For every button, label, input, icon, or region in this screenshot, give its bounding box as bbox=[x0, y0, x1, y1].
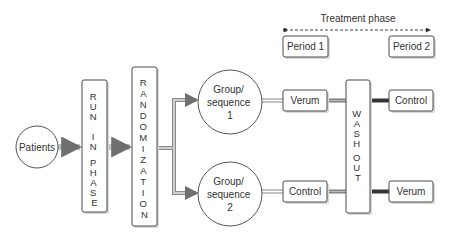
run-in-phase-label: R U N I N P H A S E bbox=[90, 91, 100, 208]
group1-period1-label: Verum bbox=[291, 95, 320, 106]
period-2-box: Period 2 bbox=[389, 36, 436, 59]
treatment-phase-header: Treatment phase bbox=[285, 13, 430, 30]
treatment-phase-label: Treatment phase bbox=[320, 13, 396, 24]
randomization-box: R A N D O M I Z A T I O N bbox=[132, 67, 159, 228]
group-sequence-2-node: Group/ sequence 2 bbox=[198, 162, 262, 226]
period-2-label: Period 2 bbox=[393, 41, 431, 52]
group-sequence-1-node: Group/ sequence 1 bbox=[198, 70, 262, 134]
period-1-label: Period 1 bbox=[287, 41, 325, 52]
wash-out-box: W A S H O U T bbox=[346, 80, 372, 215]
period-1-box: Period 1 bbox=[283, 36, 330, 59]
group2-period2-label: Verum bbox=[397, 186, 426, 197]
group2-period1-control-box: Control bbox=[283, 181, 329, 204]
group2-period2-verum-box: Verum bbox=[389, 181, 435, 204]
patients-label: Patients bbox=[19, 142, 55, 153]
wash-out-label: W A S H O U T bbox=[352, 108, 364, 183]
group1-period1-verum-box: Verum bbox=[283, 90, 329, 113]
group2-period1-label: Control bbox=[289, 186, 321, 197]
group1-period2-label: Control bbox=[395, 95, 427, 106]
patients-node: Patients bbox=[16, 126, 58, 168]
group1-period2-control-box: Control bbox=[389, 90, 435, 113]
crossover-trial-diagram: Treatment phase Period 1 Period 2 bbox=[0, 0, 452, 239]
run-in-phase-box: R U N I N P H A S E bbox=[82, 80, 109, 214]
